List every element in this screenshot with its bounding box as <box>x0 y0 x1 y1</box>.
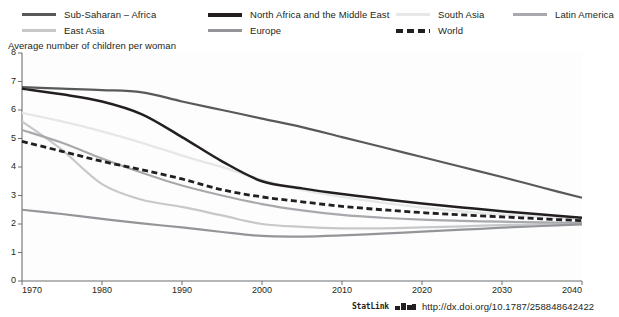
legend-item-sub-saharan-africa: Sub-Saharan – Africa <box>22 8 156 21</box>
statlink-label: StatLink <box>352 302 389 311</box>
statlink-footer: StatLink http://dx.doi.org/10.1787/25884… <box>352 300 594 312</box>
y-tick-label: 2 <box>4 218 16 228</box>
legend-label: South Asia <box>438 9 484 20</box>
x-tick-label: 2010 <box>322 285 362 295</box>
x-tick-label: 1990 <box>162 285 202 295</box>
y-tick-label: 6 <box>4 104 16 114</box>
legend-label: World <box>438 25 463 36</box>
y-tick-label: 0 <box>4 275 16 285</box>
legend-item-europe: Europe <box>208 24 281 37</box>
legend-label: East Asia <box>64 25 105 36</box>
y-tick-label: 5 <box>4 133 16 143</box>
legend-item-east-asia: East Asia <box>22 24 105 37</box>
legend-swatch-icon <box>22 13 56 16</box>
plot-area <box>0 50 619 290</box>
x-tick-label: 1970 <box>22 285 62 295</box>
legend-swatch-icon <box>208 29 242 32</box>
y-tick-label: 7 <box>4 76 16 86</box>
statlink-url-link[interactable]: http://dx.doi.org/10.1787/258848642422 <box>422 301 594 312</box>
legend-swatch-icon <box>396 13 430 16</box>
legend-swatch-icon <box>396 29 430 33</box>
legend-item-south-asia: South Asia <box>396 8 484 21</box>
x-tick-label: 2030 <box>482 285 522 295</box>
legend-swatch-icon <box>22 29 56 32</box>
y-tick-label: 8 <box>4 47 16 57</box>
x-tick-label: 1980 <box>82 285 122 295</box>
legend-label: Europe <box>250 25 281 36</box>
chart-legend: Sub-Saharan – AfricaEast AsiaNorth Afric… <box>0 4 619 38</box>
statlink-barcode-icon <box>395 302 417 310</box>
legend-item-world: World <box>396 24 463 37</box>
legend-label: Sub-Saharan – Africa <box>64 9 156 20</box>
legend-label: North Africa and the Middle East <box>250 9 389 20</box>
legend-item-latin-america: Latin America <box>513 8 614 21</box>
legend-item-north-africa-and-the-middle-east: North Africa and the Middle East <box>208 8 389 21</box>
axis-lines <box>22 53 582 281</box>
x-tick-label: 2040 <box>542 285 582 295</box>
line-chart-svg <box>0 50 619 290</box>
x-tick-label: 2000 <box>242 285 282 295</box>
y-tick-label: 1 <box>4 247 16 257</box>
y-tick-label: 3 <box>4 190 16 200</box>
legend-label: Latin America <box>555 9 614 20</box>
plot-background <box>22 53 582 281</box>
legend-swatch-icon <box>208 13 242 17</box>
y-tick-label: 4 <box>4 161 16 171</box>
x-tick-label: 2020 <box>402 285 442 295</box>
legend-swatch-icon <box>513 13 547 16</box>
